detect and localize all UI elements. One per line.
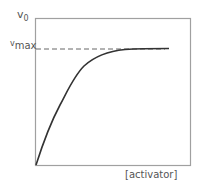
y-axis-label: v0	[17, 9, 29, 23]
saturation-curve	[36, 49, 169, 166]
chart-canvas	[0, 0, 200, 190]
vmax-label: vmax	[10, 40, 37, 51]
x-axis-label: [activator]	[125, 170, 177, 180]
plot-frame	[36, 19, 191, 166]
